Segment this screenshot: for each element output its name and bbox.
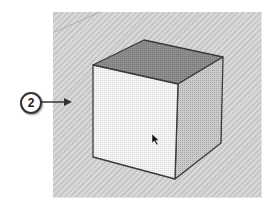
step-number: 2: [28, 96, 35, 110]
red-axis-line: [55, 12, 100, 32]
step-callout-badge: 2: [20, 92, 42, 114]
arrow-head-icon: [64, 98, 72, 106]
cube-front-face[interactable]: [93, 65, 178, 179]
